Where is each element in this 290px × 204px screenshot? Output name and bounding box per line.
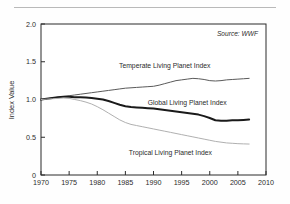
source-note: Source: WWF xyxy=(217,30,259,37)
y-tick-label: 2.0 xyxy=(26,20,36,29)
x-axis-ticks: 197019751980198519901995200020052010 xyxy=(33,171,274,187)
y-axis-title: Index Value xyxy=(7,81,16,120)
series-label: Tropical Living Planet Index xyxy=(129,149,213,157)
living-planet-index-line-chart: 00.51.01.52.0 19701975198019851990199520… xyxy=(0,0,290,204)
x-tick-label: 2005 xyxy=(230,178,246,187)
x-tick-label: 1995 xyxy=(174,178,190,187)
y-tick-label: 1.5 xyxy=(26,57,36,66)
chart-figure: 00.51.01.52.0 19701975198019851990199520… xyxy=(0,0,290,204)
series-label: Temperate Living Planet Index xyxy=(119,62,211,70)
x-tick-label: 1975 xyxy=(61,178,77,187)
x-tick-label: 1970 xyxy=(33,178,49,187)
y-tick-label: 1.0 xyxy=(26,95,36,104)
series-label: Global Living Planet Index xyxy=(148,99,228,107)
x-tick-label: 2010 xyxy=(258,178,274,187)
x-tick-label: 2000 xyxy=(202,178,218,187)
x-tick-label: 1980 xyxy=(89,178,105,187)
y-tick-label: 0.5 xyxy=(26,133,36,142)
x-tick-label: 1985 xyxy=(117,178,133,187)
x-tick-label: 1990 xyxy=(146,178,162,187)
